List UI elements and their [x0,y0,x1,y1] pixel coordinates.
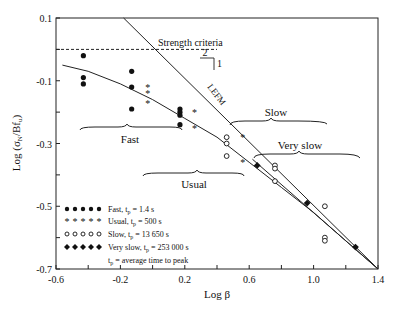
very-slow-point [96,244,102,250]
very-slow-point [80,244,86,250]
fast-point [81,207,85,211]
very-slow-point [254,162,261,169]
very-slow-point [72,244,78,250]
usual-label: Usual [181,178,207,190]
slow-point [73,232,77,236]
slow-point [89,232,93,236]
x-tick-label: 1.4 [372,274,385,285]
usual-point: * [65,216,70,227]
usual-point: * [73,216,78,227]
very-slow-point [88,244,94,250]
usual-point: * [81,216,86,227]
fast-point [81,75,86,80]
slow-point [273,179,278,184]
y-axis-label: Log (σN/Bfu) [10,114,24,171]
usual-point: * [145,98,150,109]
x-tick-label: -0.6 [48,274,64,285]
axis-tick-labels: -0.6-0.20.20.61.01.40.1-0.1-0.3-0.5-0.7 [36,13,384,285]
x-axis-label: Log β [204,288,230,300]
slow-point [81,232,85,236]
plot-frame [56,18,378,269]
fast-point [129,84,134,89]
size-effect-chart: -0.6-0.20.20.61.01.40.1-0.1-0.3-0.5-0.7 … [0,0,400,311]
fast-point [177,113,182,118]
fast-label: Fast [121,133,139,145]
usual-point: * [97,216,102,227]
slow-point [224,141,229,146]
slope-rise-label: 1 [217,58,222,69]
y-tick-label: -0.1 [36,76,52,87]
y-tick-label: -0.7 [36,264,52,275]
usual-point: * [192,123,197,134]
fast-point [129,106,134,111]
slow-point [224,135,229,140]
very-slow-point [64,244,70,250]
legend-entry: tp = average time to peak [108,256,188,266]
brace-slow [230,118,327,125]
brace-usual [143,170,244,176]
axis-ticks [56,18,378,269]
y-tick-label: -0.3 [36,139,52,150]
brace-fast [80,124,182,130]
y-tick-label: -0.5 [36,201,52,212]
usual-point: * [89,216,94,227]
legend-entry: Slow, tp = 13 650 s [108,230,169,240]
fast-point [81,81,86,86]
legend-entry: Usual, tp = 500 s [108,217,162,227]
fast-point [177,122,182,127]
slow-point [322,204,327,209]
brace-very-slow [254,151,360,158]
x-tick-label: -0.2 [112,274,128,285]
fast-point [81,53,86,58]
strength-criteria-label: Strength criteria [158,37,223,48]
slow-point [273,166,278,171]
x-tick-label: 1.0 [307,274,320,285]
fast-point [97,207,101,211]
lefm-label: LEFM [205,82,228,107]
reference-lines [56,18,378,269]
usual-point: * [240,132,245,143]
usual-point: * [192,107,197,118]
fast-point [129,69,134,74]
usual-point: * [240,157,245,168]
legend-entry: Very slow, tp = 253 000 s [108,243,189,253]
x-tick-label: 0.6 [243,274,256,285]
fast-point [89,207,93,211]
slow-point [322,238,327,243]
fit-extension-line [252,159,378,269]
legend-entry: Fast, tp = 1.4 s [108,205,154,215]
slow-point [97,232,101,236]
slow-point [224,154,229,159]
slope-triangle: 2 1 [200,47,222,70]
legend: Fast, tp = 1.4 s*****Usual, tp = 500 sSl… [64,205,189,266]
x-tick-label: 0.2 [179,274,192,285]
fast-point [73,207,77,211]
fast-point [65,207,69,211]
slope-run-label: 2 [203,47,208,58]
slow-point [65,232,69,236]
very-slow-label: Very slow [278,139,322,151]
slow-label: Slow [265,106,288,118]
y-tick-label: 0.1 [40,13,53,24]
